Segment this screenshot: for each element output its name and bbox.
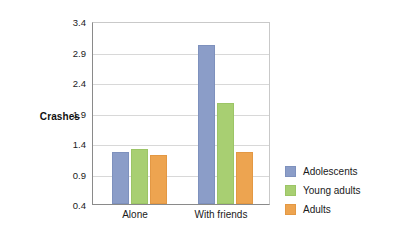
legend-swatch-icon-adolescents bbox=[285, 166, 296, 177]
bar-adults-with-friends bbox=[236, 152, 253, 204]
legend: Adolescents Young adults Adults bbox=[285, 162, 360, 219]
legend-label-young-adults: Young adults bbox=[303, 185, 360, 196]
y-axis-tick-label: 1.9 bbox=[46, 108, 86, 119]
bar-group-alone bbox=[99, 23, 179, 204]
legend-item-young-adults: Young adults bbox=[285, 181, 360, 199]
y-axis-tick-label: 3.4 bbox=[46, 17, 86, 28]
y-axis-tick-label: 1.4 bbox=[46, 139, 86, 150]
bar-adults-alone bbox=[150, 155, 167, 204]
bar-adolescents-alone bbox=[112, 152, 129, 204]
x-axis-tick-with-friends: With friends bbox=[178, 209, 264, 220]
legend-label-adults: Adults bbox=[303, 204, 331, 215]
y-axis-tick-label: 0.9 bbox=[46, 169, 86, 180]
bar-adolescents-with-friends bbox=[198, 45, 215, 204]
bar-young-adults-with-friends bbox=[217, 103, 234, 204]
legend-swatch-icon-adults bbox=[285, 204, 296, 215]
plot-area bbox=[92, 22, 270, 205]
legend-item-adults: Adults bbox=[285, 200, 360, 218]
x-axis-tick-alone: Alone bbox=[92, 209, 178, 220]
bar-chart: Crashes 0.40.91.41.92.42.93.4 Alone With… bbox=[0, 0, 395, 240]
bar-group-with-friends bbox=[185, 23, 265, 204]
legend-swatch-icon-young-adults bbox=[285, 185, 296, 196]
bar-young-adults-alone bbox=[131, 149, 148, 204]
y-axis-tick-label: 0.4 bbox=[46, 200, 86, 211]
y-axis-tick-label: 2.9 bbox=[46, 47, 86, 58]
legend-item-adolescents: Adolescents bbox=[285, 162, 360, 180]
y-axis-tick-label: 2.4 bbox=[46, 78, 86, 89]
legend-label-adolescents: Adolescents bbox=[303, 166, 357, 177]
